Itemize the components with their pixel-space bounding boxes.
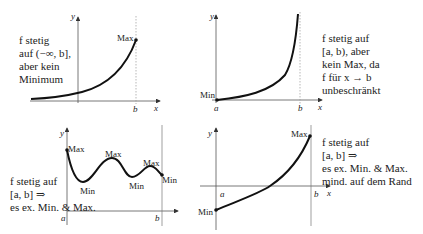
curve: [216, 136, 310, 210]
panel-1-description: f stetig auf (−∞, b], aber kein Minimum: [19, 34, 71, 86]
panel-2-description: f stetig auf [a, b), aber kein Max, da f…: [322, 32, 381, 97]
max-point: [308, 134, 312, 138]
y-axis-label: y: [60, 128, 64, 138]
b-label: b: [298, 103, 303, 113]
max-label-1: Max: [68, 144, 85, 154]
a-label: a: [220, 189, 225, 199]
y-axis-label: y: [208, 128, 212, 138]
b-label: b: [155, 213, 160, 223]
max-label: Max: [291, 129, 308, 139]
b-label: b: [314, 189, 319, 199]
panel-3-description: f stetig auf [a, b] ⇒ es ex. Min. & Max.: [10, 175, 96, 214]
panel-4-description: f stetig auf [a, b] ⇒ es ex. Min. & Max.…: [322, 136, 412, 188]
min-point: [215, 98, 219, 102]
panel-4-graph: [200, 125, 330, 230]
panel-2-graph: [212, 12, 322, 104]
y-axis-label: y: [210, 11, 214, 21]
a-label: a: [61, 213, 66, 223]
b-label: b: [133, 104, 138, 114]
a-label: a: [214, 103, 219, 113]
max-label: Max: [117, 33, 134, 43]
x-axis-label: x: [327, 188, 331, 198]
min-label-2: Min: [129, 181, 144, 191]
min-label-3: Min: [162, 175, 177, 185]
x-axis-label: x: [154, 103, 158, 113]
max-label-3: Max: [143, 158, 160, 168]
curve: [217, 14, 298, 100]
min-point: [214, 208, 218, 212]
max-point: [134, 38, 138, 42]
x-axis-label: x: [318, 102, 322, 112]
min-label: Min: [198, 207, 213, 217]
max-label-2: Max: [105, 149, 122, 159]
y-axis-label: y: [71, 11, 75, 21]
min-label: Min: [200, 90, 215, 100]
